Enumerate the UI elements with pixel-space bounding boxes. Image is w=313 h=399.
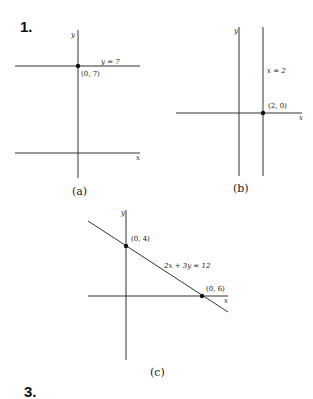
graph-c-point1-label: (0, 4)	[131, 235, 150, 243]
graph-b-caption: (b)	[233, 182, 249, 195]
graph-c-point-x-intercept	[200, 294, 204, 298]
graph-a-y-label: y	[70, 31, 76, 39]
graph-a-caption: (a)	[72, 185, 87, 198]
graph-b-x-label: x	[299, 114, 303, 122]
graph-a: y x y = 7 (0, 7) (a)	[15, 30, 140, 198]
graphs-canvas: y x y = 7 (0, 7) (a) y x x = 2 (2, 0) (b…	[0, 0, 313, 399]
graph-b-y-label: y	[233, 27, 239, 35]
graph-c-y-label: y	[120, 209, 126, 217]
graph-c-point-y-intercept	[124, 244, 128, 248]
graph-c-x-label: x	[224, 297, 228, 305]
graph-a-line-label: y = 7	[100, 58, 120, 66]
graph-c-caption: (c)	[150, 366, 165, 379]
graph-a-x-label: x	[136, 154, 140, 162]
graph-b-line-label: x = 2	[267, 67, 286, 75]
graph-b-point-label: (2, 0)	[268, 102, 287, 110]
graph-a-point-label: (0, 7)	[81, 70, 100, 78]
graph-c: y x 2x + 3y = 12 (0, 4) (0, 6) (c)	[88, 209, 228, 379]
graph-a-point	[76, 64, 80, 68]
graph-c-line-label: 2x + 3y = 12	[163, 262, 211, 270]
graph-b-point	[261, 111, 265, 115]
graph-c-point2-label: (0, 6)	[206, 285, 225, 293]
graph-b: y x x = 2 (2, 0) (b)	[176, 27, 303, 195]
